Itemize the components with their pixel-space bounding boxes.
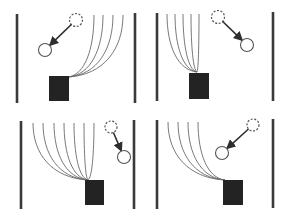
end-position-circle bbox=[118, 151, 131, 164]
figure-canvas bbox=[0, 0, 289, 219]
strand-curve bbox=[43, 123, 88, 180]
start-position-circle bbox=[247, 119, 259, 131]
end-position-circle bbox=[216, 147, 229, 160]
strand-curve bbox=[88, 123, 94, 180]
panel-top-left bbox=[17, 13, 135, 103]
block bbox=[85, 180, 104, 205]
panel-bottom-right bbox=[157, 119, 273, 209]
start-position-circle bbox=[105, 121, 117, 133]
start-position-circle bbox=[70, 14, 83, 27]
strand-curve bbox=[191, 14, 197, 72]
strand-curve bbox=[197, 14, 199, 72]
motion-arrow bbox=[223, 22, 242, 41]
start-position-circle bbox=[212, 11, 225, 24]
panel-top-right bbox=[157, 11, 273, 102]
block bbox=[189, 73, 209, 99]
block bbox=[49, 76, 69, 101]
strand-curve bbox=[54, 123, 88, 180]
end-position-circle bbox=[241, 39, 254, 52]
strand-curve bbox=[33, 123, 88, 180]
panel-bottom-left bbox=[21, 120, 134, 209]
diagram-svg bbox=[0, 0, 289, 219]
end-position-circle bbox=[39, 44, 52, 57]
motion-arrow bbox=[113, 133, 121, 151]
block bbox=[223, 180, 243, 205]
strand-curve bbox=[84, 123, 88, 180]
strand-curve bbox=[167, 14, 197, 72]
motion-arrow bbox=[227, 129, 248, 148]
motion-arrow bbox=[50, 25, 71, 46]
